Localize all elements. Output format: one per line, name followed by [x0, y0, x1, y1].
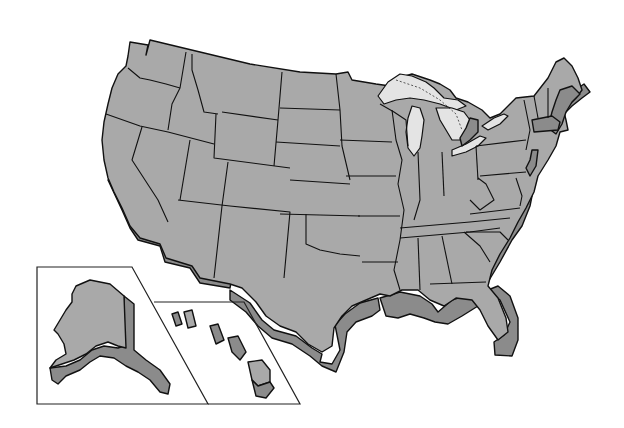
- kauai: [172, 312, 182, 326]
- niihau: [184, 310, 196, 328]
- us-map: [0, 0, 624, 428]
- alaska: [50, 280, 170, 394]
- us-map-canvas: [0, 0, 624, 428]
- big-island-top: [248, 360, 270, 386]
- maui-molokai: [228, 336, 246, 360]
- oahu: [210, 324, 224, 344]
